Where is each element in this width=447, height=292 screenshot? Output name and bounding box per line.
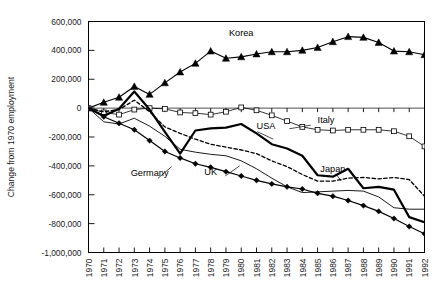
data-point-marker — [330, 128, 335, 133]
data-point-marker — [193, 111, 198, 116]
data-point-marker — [223, 169, 228, 174]
data-point-marker — [314, 44, 321, 51]
y-axis-tick-label: -800,000 — [48, 219, 81, 229]
series-label-usa: USA — [257, 121, 277, 131]
data-point-marker — [117, 112, 122, 117]
data-point-marker — [254, 178, 259, 183]
data-point-marker — [315, 127, 320, 132]
data-point-marker — [269, 181, 274, 186]
x-axis-tick-label: 1978 — [206, 258, 216, 277]
data-point-marker — [193, 161, 198, 166]
data-point-marker — [346, 127, 351, 132]
x-axis-tick-label: 1986 — [328, 258, 338, 277]
data-point-marker — [330, 193, 335, 198]
x-axis-tick-label: 1987 — [343, 258, 353, 277]
y-axis-tick-label: -1,000,000 — [41, 248, 81, 258]
y-axis-tick-label: 600,000 — [51, 17, 82, 27]
x-axis-tick-label: 1975 — [160, 258, 170, 277]
series-korea — [85, 33, 428, 111]
data-point-marker — [116, 121, 121, 126]
x-axis-tick-label: 1992 — [420, 258, 430, 277]
data-point-marker — [300, 186, 305, 191]
x-axis-tick-label: 1973 — [130, 258, 140, 277]
x-axis-tick-label: 1974 — [145, 258, 155, 277]
x-axis-tick-label: 1990 — [389, 258, 399, 277]
x-axis-tick-label: 1976 — [175, 258, 185, 277]
data-point-marker — [161, 79, 168, 86]
x-axis-tick-label: 1981 — [252, 258, 262, 277]
x-axis-tick-label: 1991 — [404, 258, 414, 277]
x-axis-tick-label: 1984 — [298, 258, 308, 277]
y-axis-tick-label: 400,000 — [51, 45, 82, 55]
data-point-marker — [178, 110, 183, 115]
data-point-marker — [407, 224, 412, 229]
y-axis-tick-label: 0 — [77, 103, 82, 113]
data-point-marker — [177, 155, 182, 160]
x-axis-tick-label: 1972 — [114, 258, 124, 277]
data-point-marker — [224, 109, 229, 114]
data-point-marker — [115, 94, 122, 101]
series-label-italy: Italy — [318, 115, 335, 125]
data-point-marker — [162, 106, 167, 111]
data-point-marker — [131, 83, 138, 90]
x-axis-tick-label: 1971 — [99, 258, 109, 277]
employment-change-chart: 600,000400,000200,0000-200,000-400,000-6… — [0, 0, 447, 292]
data-point-marker — [239, 105, 244, 110]
x-axis-tick-label: 1977 — [191, 258, 201, 277]
data-point-marker — [146, 91, 153, 98]
y-axis-tick-label: -200,000 — [48, 132, 81, 142]
data-point-marker — [269, 113, 274, 118]
data-point-marker — [254, 108, 259, 113]
x-axis-tick-label: 1970 — [84, 258, 94, 277]
data-point-marker — [284, 184, 289, 189]
series-label-uk: UK — [204, 167, 218, 177]
data-point-marker — [239, 173, 244, 178]
x-axis-tick-label: 1980 — [236, 258, 246, 277]
series-label-germany: Germany — [131, 168, 169, 178]
data-point-marker — [177, 68, 184, 75]
data-point-marker — [407, 134, 412, 139]
data-point-marker — [132, 107, 137, 112]
data-point-marker — [361, 127, 366, 132]
data-point-marker — [422, 144, 427, 149]
x-axis-tick-label: 1985 — [313, 258, 323, 277]
data-point-marker — [361, 203, 366, 208]
y-axis-tick-label: -400,000 — [48, 161, 81, 171]
y-axis-tick-label: 200,000 — [51, 74, 82, 84]
data-point-marker — [208, 112, 213, 117]
series-label-korea: Korea — [229, 28, 254, 38]
series-label-japan: Japan — [320, 164, 345, 174]
data-point-marker — [392, 129, 397, 134]
y-axis-tick-label: -600,000 — [48, 190, 81, 200]
x-axis-tick-label: 1983 — [282, 258, 292, 277]
data-point-marker — [285, 119, 290, 124]
x-axis-tick-label: 1979 — [221, 258, 231, 277]
data-point-marker — [345, 198, 350, 203]
data-point-marker — [207, 47, 214, 54]
y-axis-title: Change from 1970 employment — [6, 76, 16, 197]
x-axis-tick-label: 1988 — [359, 258, 369, 277]
data-point-marker — [422, 231, 427, 236]
data-point-marker — [391, 216, 396, 221]
data-point-marker — [376, 209, 381, 214]
x-axis-tick-label: 1989 — [374, 258, 384, 277]
chart-canvas: 600,000400,000200,0000-200,000-400,000-6… — [0, 0, 447, 292]
x-axis-tick-label: 1982 — [267, 258, 277, 277]
data-point-marker — [376, 127, 381, 132]
